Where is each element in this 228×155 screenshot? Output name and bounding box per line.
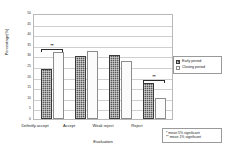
x-tick-label-reject: Reject [117,124,157,129]
bar-closing-period[interactable] [87,51,98,119]
plot-area: ** ** [33,14,173,120]
bar-closing-period[interactable] [121,61,132,119]
bar-early-period[interactable] [109,55,120,119]
bracket-tick-right [62,49,63,52]
bar-early-period[interactable] [41,69,52,119]
bar-group-weak-reject [104,15,136,119]
chart-legend: Early period Closing period [173,56,222,74]
significance-marker: ** [41,44,63,48]
legend-swatch-early-period [176,60,180,64]
significance-marker: ** [143,75,165,79]
legend-swatch-closing-period [176,66,180,70]
y-tick-label: 15 [27,86,31,89]
bar-early-period[interactable] [75,56,86,119]
bracket-line [143,80,165,81]
bracket-tick-right [164,80,165,83]
legend-item-closing-period[interactable]: Closing period [176,65,219,71]
footnote-line-1pct: ** mean 1% significant [166,135,218,139]
bar-group-definitly-accept [36,15,68,119]
y-tick-label: 0 [29,118,31,121]
legend-label-closing-period: Closing period [182,66,205,70]
bar-early-period[interactable] [143,83,154,119]
y-tick-label: 25 [27,65,31,68]
bracket-line [41,49,63,50]
y-tick-label: 50 [27,12,31,15]
bar-group-accept [70,15,102,119]
significance-footnote-box: * mean 5% significant ** mean 1% signifi… [162,128,222,143]
bar-closing-period[interactable] [155,98,166,119]
bar-group-reject [138,15,170,119]
y-tick-label: 30 [27,55,31,58]
bracket-tick-left [41,49,42,52]
y-tick-label: 35 [27,44,31,47]
y-tick-label: 40 [27,33,31,36]
bar-closing-period[interactable] [53,52,64,119]
x-axis-title: Evaluation [33,140,173,144]
bar-series-container [34,15,172,119]
bracket-tick-left [143,80,144,83]
y-tick-label: 45 [27,23,31,26]
y-tick-label: 10 [27,97,31,100]
y-tick-label: 5 [29,108,31,111]
chart-figure: Percentage(%) 50 45 40 35 30 25 20 15 10… [0,0,228,155]
legend-label-early-period: Early period [182,60,201,64]
y-axis-ticks: 50 45 40 35 30 25 20 15 10 5 0 [0,0,33,122]
y-tick-label: 20 [27,76,31,79]
